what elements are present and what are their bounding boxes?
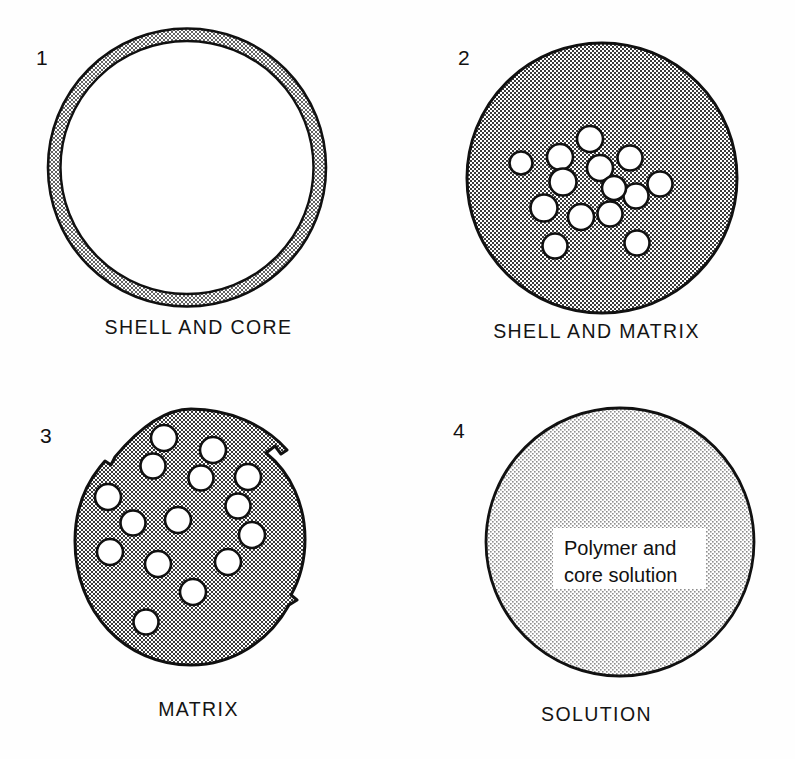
core-droplet <box>648 172 673 197</box>
core-droplet <box>625 231 650 256</box>
core-area <box>61 41 314 294</box>
panel-caption-4: SOLUTION <box>398 705 795 725</box>
core-droplet <box>97 539 123 565</box>
core-droplet <box>602 176 626 200</box>
matrix-irregular-outline <box>75 409 305 665</box>
core-droplet <box>145 551 171 577</box>
core-droplet <box>239 522 265 548</box>
core-droplet <box>547 144 573 170</box>
core-droplet <box>550 169 577 196</box>
core-droplet <box>215 549 241 575</box>
polymer-core-solution-label: Polymer and core solution <box>553 528 706 589</box>
shell-and-matrix-graphic <box>464 38 742 323</box>
core-droplet <box>543 234 568 259</box>
core-droplet <box>189 466 214 491</box>
core-droplet <box>200 437 226 463</box>
matrix-graphic <box>53 401 328 686</box>
core-droplet <box>141 454 166 479</box>
core-droplet <box>165 507 191 533</box>
figure-canvas: 1 SHELL AND CORE 2 <box>0 0 795 759</box>
panel-caption-2: SHELL AND MATRIX <box>398 322 795 342</box>
panel-caption-1: SHELL AND CORE <box>0 318 397 338</box>
core-droplet <box>134 610 159 635</box>
shell-and-core-graphic <box>45 25 330 310</box>
panel-number-3: 3 <box>40 425 52 446</box>
core-droplet <box>577 126 603 152</box>
panel-shell-and-matrix: 2 <box>398 0 795 380</box>
panel-number-4: 4 <box>453 420 465 441</box>
panel-shell-and-core: 1 SHELL AND CORE <box>0 0 397 380</box>
core-droplet <box>180 579 206 605</box>
core-droplet <box>121 511 146 536</box>
core-droplet <box>598 202 623 227</box>
panel-solution: 4 Polymer and core solution SOLUTION <box>398 383 795 759</box>
panel-matrix: 3 <box>0 383 397 759</box>
core-droplet <box>235 464 261 490</box>
core-droplet <box>568 204 594 230</box>
core-droplet <box>531 195 558 222</box>
core-droplet <box>226 494 251 519</box>
panel-caption-3: MATRIX <box>0 700 397 720</box>
core-droplet <box>618 146 643 171</box>
core-droplet <box>95 484 121 510</box>
core-droplet <box>151 425 177 451</box>
core-droplet <box>510 152 533 175</box>
